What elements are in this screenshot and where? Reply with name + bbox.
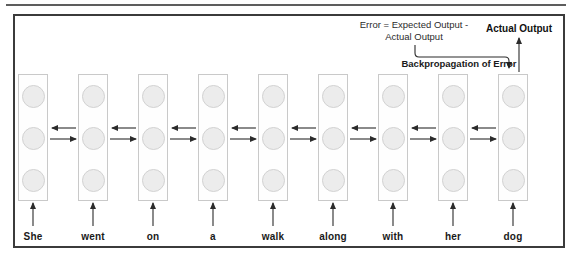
rnn-node (382, 127, 405, 150)
rnn-node (82, 85, 105, 108)
rnn-cell-column (318, 74, 348, 201)
rnn-node (142, 169, 165, 192)
rnn-cell-column (438, 74, 468, 201)
rnn-cell-column (78, 74, 108, 201)
backpropagation-label: Backpropagation of Error (396, 58, 522, 69)
input-word-label: dog (478, 231, 548, 242)
rnn-node (322, 127, 345, 150)
rnn-node (502, 169, 525, 192)
rnn-node (202, 169, 225, 192)
rnn-node (262, 169, 285, 192)
rnn-node (262, 127, 285, 150)
rnn-node (502, 85, 525, 108)
bidirectional-rnn-diagram: She went on a walk along with her dog Er… (0, 0, 580, 266)
rnn-node (442, 127, 465, 150)
rnn-node (22, 169, 45, 192)
rnn-cell-column (138, 74, 168, 201)
rnn-node (262, 85, 285, 108)
rnn-cell-column (258, 74, 288, 201)
rnn-node (382, 169, 405, 192)
error-formula-label: Error = Expected Output - Actual Output (352, 19, 476, 43)
rnn-cell-column (378, 74, 408, 201)
rnn-node (202, 85, 225, 108)
rnn-node (442, 85, 465, 108)
rnn-cell-column (198, 74, 228, 201)
rnn-node (22, 127, 45, 150)
rnn-node (442, 169, 465, 192)
rnn-node (82, 127, 105, 150)
error-formula-line-1: Error = Expected Output - (360, 19, 469, 30)
top-divider-rule (6, 4, 566, 6)
error-formula-line-2: Actual Output (385, 31, 443, 42)
rnn-cell-column (498, 74, 528, 201)
rnn-node (82, 169, 105, 192)
rnn-node (322, 85, 345, 108)
rnn-node (322, 169, 345, 192)
rnn-node (142, 127, 165, 150)
actual-output-label: Actual Output (466, 23, 572, 34)
rnn-cell-column (18, 74, 48, 201)
rnn-node (22, 85, 45, 108)
rnn-node (382, 85, 405, 108)
rnn-node (202, 127, 225, 150)
rnn-node (142, 85, 165, 108)
rnn-node (502, 127, 525, 150)
